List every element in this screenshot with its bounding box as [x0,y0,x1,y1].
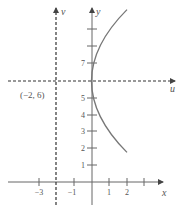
y-tick-label: 7 [81,59,85,68]
y-axis-label: y [95,6,101,17]
u-axis-label: u [170,83,175,94]
y-tick-label: 1 [81,161,85,170]
y-tick-label: 3 [81,127,85,136]
x-tick-label: −3 [35,188,44,197]
parabola-chart: −3 −1 1 2 1 2 3 4 5 7 x y u v (−2, 6) [0,0,189,209]
y-tick-label: 2 [81,144,85,153]
x-tick-label: 2 [125,188,129,197]
x-axis-label: x [161,187,167,198]
y-tick-label: 4 [81,111,85,120]
x-tick-label: −1 [68,188,77,197]
vertex-label: (−2, 6) [20,90,45,100]
x-tick-label: 1 [107,188,111,197]
v-axis-label: v [61,6,66,17]
y-tick-label: 5 [81,94,85,103]
